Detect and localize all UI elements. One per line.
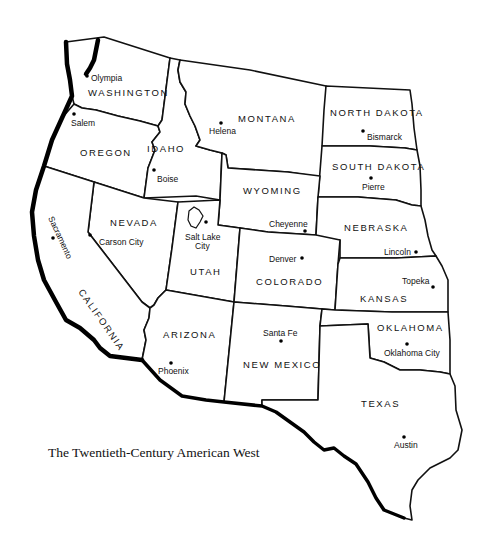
label-idaho: IDAHO: [147, 143, 185, 154]
capital-dot-salt-lake-city: [204, 220, 208, 224]
label-utah: UTAH: [190, 266, 222, 277]
label-arizona: ARIZONA: [163, 329, 216, 340]
label-montana: MONTANA: [238, 113, 296, 124]
city-austin: Austin: [394, 440, 418, 450]
label-nevada: NEVADA: [110, 217, 158, 228]
label-wyoming: WYOMING: [243, 185, 302, 196]
label-oregon: OREGON: [80, 147, 132, 158]
label-texas: TEXAS: [361, 398, 400, 409]
state-arizona: [142, 290, 234, 402]
capital-dot-cheyenne: [303, 229, 307, 233]
city-salem: Salem: [71, 118, 95, 128]
label-colorado: COLORADO: [256, 276, 323, 287]
city-cheyenne: Cheyenne: [269, 219, 308, 229]
capital-dot-helena: [219, 121, 223, 125]
capital-dot-oklahoma-city: [405, 342, 409, 346]
city-topeka: Topeka: [402, 276, 430, 286]
city-olympia: Olympia: [91, 73, 122, 83]
capital-dot-carson-city: [88, 233, 92, 237]
capital-dot-bismarck: [361, 129, 365, 133]
capital-dot-olympia: [85, 74, 89, 78]
state-new-mexico: [224, 302, 322, 406]
city-denver: Denver: [269, 254, 297, 264]
capital-dot-salem: [72, 112, 76, 116]
label-nebraska: NEBRASKA: [344, 222, 409, 233]
label-new-mexico: NEW MEXICO: [243, 359, 321, 370]
label-north-dakota: NORTH DAKOTA: [330, 107, 424, 118]
city-salt-lake-city-line2: City: [195, 241, 210, 251]
label-oklahoma: OKLAHOMA: [377, 322, 444, 333]
city-carson-city: Carson City: [99, 237, 144, 247]
city-helena: Helena: [209, 126, 236, 136]
city-bismarck: Bismarck: [367, 132, 403, 142]
label-kansas: KANSAS: [360, 293, 408, 304]
label-washington: WASHINGTON: [88, 87, 169, 98]
map-title: The Twentieth-Century American West: [48, 445, 260, 460]
city-phoenix: Phoenix: [158, 366, 189, 376]
capital-dot-denver: [300, 256, 304, 260]
capital-dot-topeka: [431, 285, 435, 289]
label-south-dakota: SOUTH DAKOTA: [332, 161, 425, 172]
city-boise: Boise: [157, 174, 179, 184]
capital-dot-austin: [402, 435, 406, 439]
city-oklahoma-city: Oklahoma City: [384, 348, 440, 358]
city-pierre: Pierre: [362, 182, 385, 192]
capital-dot-pierre: [369, 176, 373, 180]
capital-dot-lincoln: [414, 250, 418, 254]
state-colorado: [234, 228, 340, 310]
capital-dot-sacramento: [51, 236, 55, 240]
western-us-map: WASHINGTON OREGON IDAHO MONTANA NORTH DA…: [0, 0, 494, 553]
capital-dot-phoenix: [169, 361, 173, 365]
capital-dot-boise: [152, 168, 156, 172]
capital-dot-santa-fe: [279, 339, 283, 343]
city-santa-fe: Santa Fe: [263, 328, 298, 338]
city-lincoln: Lincoln: [384, 247, 411, 257]
